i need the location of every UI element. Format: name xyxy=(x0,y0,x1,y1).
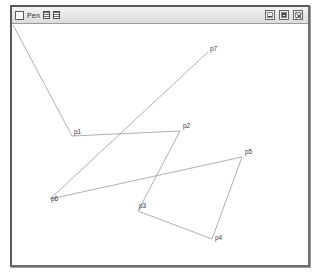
path-segment xyxy=(50,157,242,199)
vertex-label-p2: p2 xyxy=(183,122,191,130)
path-segment xyxy=(138,131,180,211)
maximize-button[interactable] xyxy=(279,10,289,20)
polyline-drawing: p1p2p3p4p5p6p7 xyxy=(12,24,308,264)
path-segment xyxy=(13,25,72,136)
window-title-bar[interactable]: Pen xyxy=(12,7,308,24)
path-segment xyxy=(138,211,212,239)
window-menu-icon[interactable] xyxy=(15,11,24,20)
vertex-label-p5: p5 xyxy=(245,148,253,156)
app-root: Pen p1p2p3p4p5p6p7 xyxy=(0,0,318,278)
vertex-label-p7: p7 xyxy=(210,45,218,53)
vertex-label-p1: p1 xyxy=(74,128,82,136)
window-controls xyxy=(265,10,305,20)
vertex-label-group: p1p2p3p4p5p6p7 xyxy=(51,45,253,242)
segment-group xyxy=(13,25,242,239)
title-bar-left-group: Pen xyxy=(15,11,60,20)
close-icon xyxy=(295,12,303,20)
path-segment xyxy=(72,131,180,136)
pen-window: Pen p1p2p3p4p5p6p7 xyxy=(10,5,310,267)
vertex-label-p6: p6 xyxy=(51,195,59,203)
drawing-canvas[interactable]: p1p2p3p4p5p6p7 xyxy=(12,24,308,265)
vertex-label-p3: p3 xyxy=(139,202,147,210)
grid-glyph-icon xyxy=(43,11,50,19)
path-segment xyxy=(212,157,242,239)
vertex-label-p4: p4 xyxy=(215,234,223,242)
grid-glyph-icon xyxy=(53,11,60,19)
window-title: Pen xyxy=(27,11,40,20)
close-button[interactable] xyxy=(293,10,303,20)
minimize-button[interactable] xyxy=(265,10,275,20)
